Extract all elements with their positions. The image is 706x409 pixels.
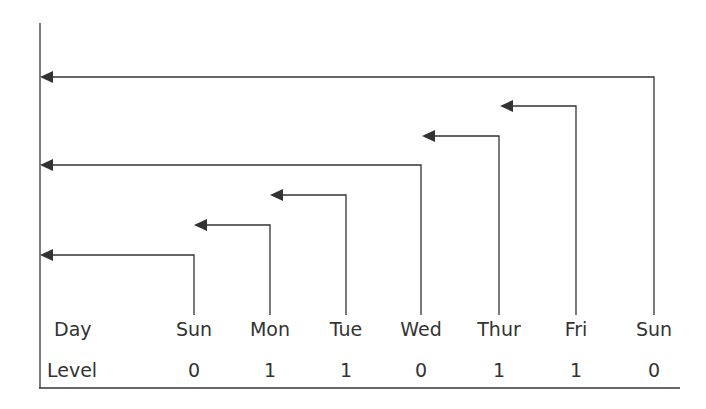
arrow-line — [204, 225, 270, 315]
day-label: Thur — [477, 318, 521, 340]
level-value: 1 — [340, 359, 352, 381]
level-value: 0 — [648, 359, 660, 381]
level-value: 1 — [264, 359, 276, 381]
arrow-line — [432, 136, 499, 315]
arrow-line — [50, 165, 421, 315]
arrow-line — [510, 106, 576, 315]
day-label: Sun — [176, 318, 212, 340]
arrowhead-icon — [40, 159, 53, 171]
arrowhead-icon — [500, 100, 513, 112]
arrowhead-icon — [270, 189, 283, 201]
arrowhead-icon — [40, 249, 53, 261]
row-label-level: Level — [47, 359, 97, 381]
day-label: Fri — [565, 318, 588, 340]
arrowhead-icon — [422, 130, 435, 142]
day-label: Sun — [636, 318, 672, 340]
arrow-line — [50, 255, 194, 315]
arrowhead-icon — [40, 71, 53, 83]
arrow-line — [280, 195, 346, 315]
level-value: 0 — [415, 359, 427, 381]
day-label: Wed — [400, 318, 441, 340]
arrow-diagram — [0, 0, 706, 409]
arrow-line — [50, 77, 654, 315]
level-value: 1 — [493, 359, 505, 381]
row-label-day: Day — [54, 318, 92, 340]
level-value: 1 — [570, 359, 582, 381]
arrowhead-icon — [194, 219, 207, 231]
day-label: Mon — [250, 318, 290, 340]
level-value: 0 — [188, 359, 200, 381]
day-label: Tue — [330, 318, 362, 340]
